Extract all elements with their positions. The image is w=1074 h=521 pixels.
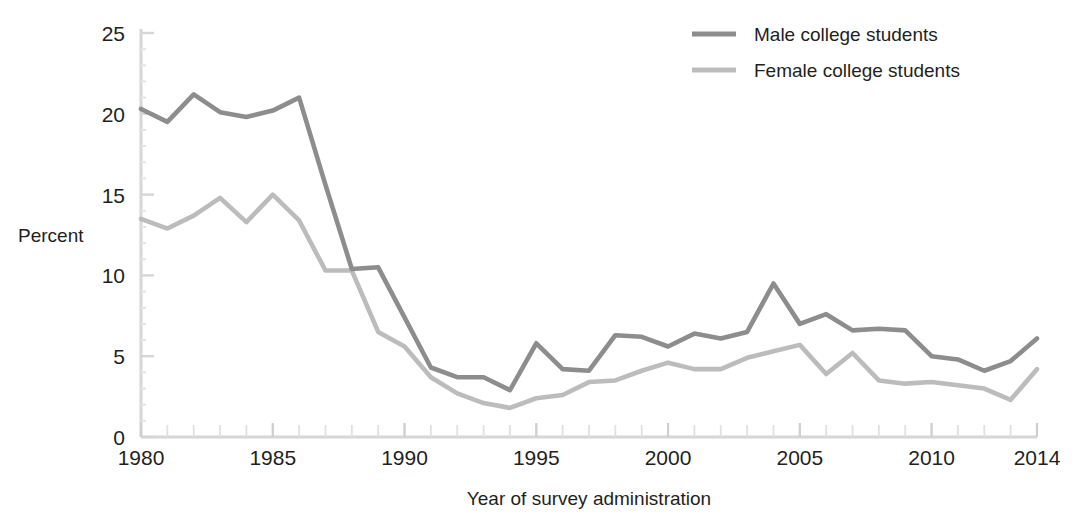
x-axis-tick-label: 1980 <box>118 446 165 469</box>
legend-label: Male college students <box>754 24 938 45</box>
x-axis-tick-label: 1985 <box>249 446 296 469</box>
x-axis-tick-label: 1995 <box>513 446 560 469</box>
legend-label: Female college students <box>754 60 960 81</box>
x-axis-tick-label: 2014 <box>1014 446 1061 469</box>
y-axis-title: Percent <box>18 225 84 246</box>
y-axis-tick-label: 25 <box>102 22 125 45</box>
x-axis-tick-label: 2000 <box>645 446 692 469</box>
series-line-female <box>141 195 1037 408</box>
y-axis-tick-label: 15 <box>102 184 125 207</box>
x-axis-tick-label: 2005 <box>776 446 823 469</box>
line-chart: 0510152025198019851990199520002005201020… <box>0 0 1074 521</box>
series-layer <box>141 94 1037 408</box>
axis-layer <box>141 29 1037 437</box>
x-axis-tick-label: 1990 <box>381 446 428 469</box>
y-axis-tick-label: 20 <box>102 103 125 126</box>
chart-container: 0510152025198019851990199520002005201020… <box>0 0 1074 521</box>
x-axis-tick-label: 2010 <box>908 446 955 469</box>
series-line-male <box>141 94 1037 390</box>
y-axis-tick-label: 10 <box>102 264 125 287</box>
x-axis-title: Year of survey administration <box>467 488 711 509</box>
y-axis-tick-label: 5 <box>113 345 125 368</box>
chart-legend: Male college studentsFemale college stud… <box>692 24 960 81</box>
